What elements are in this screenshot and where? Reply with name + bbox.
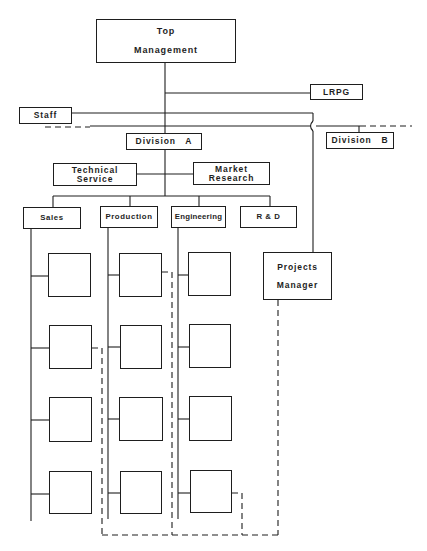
production-subunit-4[interactable] — [120, 471, 162, 514]
sales-label: Sales — [40, 214, 63, 222]
org-chart: Top Management LRPG Staff Division A Div… — [0, 0, 427, 551]
sales-box[interactable]: Sales — [23, 207, 81, 229]
technical-service-label-line2: Service — [77, 175, 114, 184]
projects-manager-label-line1: Projects — [277, 263, 318, 272]
production-box[interactable]: Production — [100, 206, 158, 228]
top-management-label-line2: Management — [134, 46, 198, 55]
technical-service-box[interactable]: Technical Service — [53, 163, 137, 186]
staff-label: Staff — [34, 111, 57, 120]
top-management-label-line1: Top — [157, 27, 176, 36]
production-subunit-2[interactable] — [120, 325, 162, 369]
rnd-box[interactable]: R & D — [240, 206, 297, 228]
production-subunit-1[interactable] — [119, 253, 162, 297]
rnd-label: R & D — [256, 213, 280, 221]
division-b-label: Division B — [331, 136, 388, 145]
engineering-subunit-2[interactable] — [189, 324, 231, 368]
top-management-box[interactable]: Top Management — [96, 19, 236, 63]
sales-subunit-4[interactable] — [49, 471, 92, 514]
engineering-subunit-1[interactable] — [188, 252, 231, 296]
market-research-box[interactable]: Market Research — [193, 162, 270, 185]
staff-box[interactable]: Staff — [19, 107, 72, 124]
engineering-box[interactable]: Engineering — [171, 206, 226, 228]
production-subunit-3[interactable] — [119, 397, 163, 441]
sales-subunit-3[interactable] — [49, 397, 92, 442]
projects-manager-label-line2: Manager — [277, 281, 318, 290]
division-b-box[interactable]: Division B — [326, 132, 394, 149]
engineering-subunit-3[interactable] — [189, 396, 232, 441]
production-label: Production — [105, 213, 152, 221]
lrpg-box[interactable]: LRPG — [310, 84, 363, 100]
division-a-box[interactable]: Division A — [126, 133, 202, 150]
market-research-label-line2: Research — [209, 174, 254, 183]
lrpg-label: LRPG — [323, 88, 350, 97]
projects-manager-box[interactable]: Projects Manager — [263, 252, 332, 300]
sales-subunit-1[interactable] — [48, 253, 91, 297]
engineering-subunit-4[interactable] — [190, 470, 232, 513]
engineering-label: Engineering — [175, 213, 222, 221]
division-a-label: Division A — [136, 137, 193, 146]
sales-subunit-2[interactable] — [49, 325, 92, 369]
